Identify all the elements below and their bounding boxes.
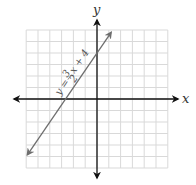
svg-text:x + 4: x + 4 (67, 47, 91, 75)
x-axis-label: x (182, 91, 190, 106)
coordinate-plane: x y y = 3 2 x + 4 (0, 0, 196, 185)
line-y-equals-three-halves-x-plus-four (27, 32, 111, 154)
y-axis-label: y (92, 2, 101, 17)
